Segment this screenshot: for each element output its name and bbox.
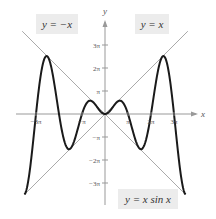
chart-plot: xy −3π−ππ2π3π3π2ππ−π−2π−3π [0,0,216,219]
y-tick-label: −π [93,134,101,142]
y-axis-label: y [102,6,107,16]
x-axis-label: x [200,109,205,119]
y-tick-label: −2π [89,157,100,165]
x-tick-label: −π [78,118,86,126]
y-tick-label: 2π [93,65,101,73]
y-axis-arrow-icon [103,20,108,27]
label-y-equals-neg-x: y = −x [36,14,78,34]
x-tick-label: π [126,118,130,126]
x-tick-label: 3π [170,118,178,126]
x-tick-label: −3π [31,118,42,126]
label-y-equals-x-sin-x: y = x sin x [118,189,178,209]
y-tick-label: π [96,88,100,96]
x-axis-arrow-icon [191,112,198,117]
label-y-equals-x: y = x [135,14,169,34]
x-tick-label: 2π [147,118,155,126]
y-tick-label: −3π [89,180,100,188]
y-tick-label: 3π [93,42,101,50]
